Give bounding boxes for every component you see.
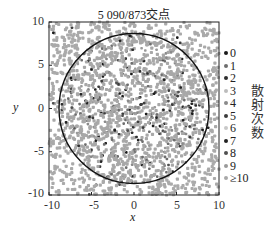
legend-item: ≥10	[224, 172, 249, 185]
y-tick-label: 10	[14, 14, 44, 29]
x-tick-label: 5	[162, 198, 192, 213]
legend-item: 6	[224, 122, 249, 135]
chart-title: 5 090/873交点	[49, 5, 219, 23]
legend-item: 5	[224, 110, 249, 123]
legend-label: ≥10	[230, 171, 249, 185]
legend-marker-icon	[224, 51, 228, 55]
legend-item: 4	[224, 97, 249, 110]
legend-marker-icon	[224, 176, 228, 180]
x-tick-label: 10	[204, 198, 234, 213]
legend: 0123456789≥10	[224, 47, 249, 185]
legend-item: 3	[224, 85, 249, 98]
y-tick-label: -5	[14, 144, 44, 159]
x-tick-label: 0	[119, 198, 149, 213]
x-tick-label: -10	[37, 198, 67, 213]
legend-marker-icon	[224, 139, 228, 143]
legend-marker-icon	[224, 89, 228, 93]
scatter-points	[48, 20, 221, 196]
legend-item: 0	[224, 47, 249, 60]
legend-marker-icon	[224, 164, 228, 168]
legend-item: 2	[224, 72, 249, 85]
y-tick-label: 5	[14, 57, 44, 72]
legend-marker-icon	[224, 151, 228, 155]
x-tick-label: -5	[79, 198, 109, 213]
legend-marker-icon	[224, 126, 228, 130]
legend-item: 1	[224, 60, 249, 73]
y-tick-label: 0	[14, 101, 44, 116]
legend-marker-icon	[224, 101, 228, 105]
legend-item: 8	[224, 147, 249, 160]
legend-item: 7	[224, 135, 249, 148]
legend-marker-icon	[224, 76, 228, 80]
legend-title: 散射次数	[247, 84, 266, 140]
legend-marker-icon	[224, 114, 228, 118]
legend-marker-icon	[224, 64, 228, 68]
